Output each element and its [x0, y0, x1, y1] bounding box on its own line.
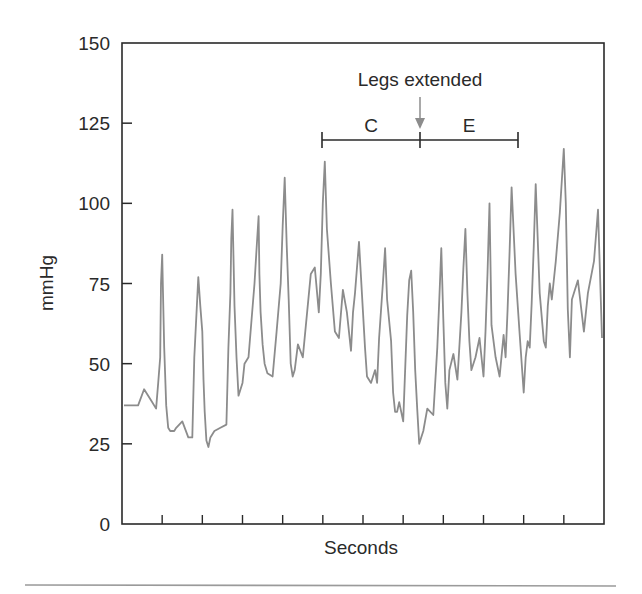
y-tick-label: 50: [89, 354, 110, 375]
y-axis-title: mmHg: [36, 255, 57, 311]
y-tick-label: 75: [89, 274, 110, 295]
y-axis-ticks: 0255075100125150: [78, 33, 132, 535]
y-tick-label: 25: [89, 434, 110, 455]
pressure-trace: [124, 149, 602, 447]
period-bracket: [322, 132, 518, 148]
x-axis-ticks: [162, 515, 564, 524]
bracket-label-extended: E: [463, 115, 476, 136]
legs-extended-label: Legs extended: [358, 69, 483, 90]
y-tick-label: 150: [78, 33, 110, 54]
x-axis-title: Seconds: [324, 537, 398, 558]
bracket-label-control: C: [364, 115, 378, 136]
bottom-rule: [25, 585, 616, 586]
y-tick-label: 100: [78, 193, 110, 214]
legs-extended-arrow-icon: [415, 97, 425, 129]
y-tick-label: 125: [78, 113, 110, 134]
pressure-chart: 0255075100125150 mmHg Seconds Legs exten…: [0, 0, 642, 594]
y-tick-label: 0: [99, 514, 110, 535]
